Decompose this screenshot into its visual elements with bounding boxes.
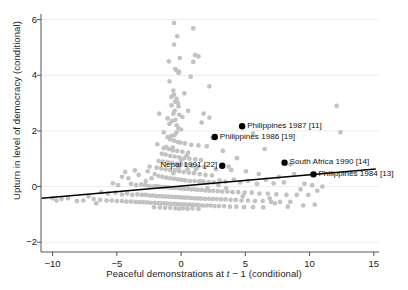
- scatter-point: [320, 184, 325, 189]
- scatter-point: [271, 181, 276, 186]
- y-axis-label: Upturn in level of democracy (conditiona…: [11, 21, 22, 200]
- scatter-point: [256, 172, 261, 177]
- scatter-point: [145, 169, 150, 174]
- scatter-point: [163, 205, 168, 210]
- scatter-point: [172, 21, 177, 26]
- point-annotation: Philippines 1984 [13]: [318, 169, 393, 178]
- scatter-point: [181, 206, 186, 211]
- scatter-point: [207, 84, 212, 89]
- scatter-point: [116, 183, 121, 188]
- scatter-point: [294, 193, 299, 198]
- scatter-point: [224, 186, 229, 191]
- scatter-point: [125, 191, 130, 196]
- point-annotation: South Africa 1990 [14]: [290, 157, 370, 166]
- scatter-point: [338, 130, 343, 135]
- scatter-point: [171, 171, 176, 176]
- scatter-point: [249, 190, 254, 195]
- scatter-point: [223, 197, 228, 202]
- scatter-point: [155, 142, 160, 147]
- scatter-point: [239, 198, 244, 203]
- scatter-point: [234, 204, 239, 209]
- scatter-point: [109, 198, 114, 203]
- scatter-point: [183, 178, 188, 183]
- scatter-point: [181, 170, 186, 175]
- scatter-point: [298, 187, 303, 192]
- scatter-point: [196, 54, 201, 59]
- highlighted-point[interactable]: [219, 163, 225, 169]
- scatter-point: [207, 115, 212, 120]
- scatter-point: [175, 34, 180, 39]
- plot-canvas: [0, 0, 408, 290]
- scatter-point: [123, 170, 128, 175]
- scatter-point: [185, 207, 190, 212]
- scatter-point: [230, 190, 235, 195]
- y-tick-label: −2: [20, 236, 37, 247]
- scatter-point: [192, 179, 197, 184]
- scatter-point: [260, 199, 265, 204]
- scatter-point: [178, 140, 183, 145]
- scatter-point: [158, 205, 163, 210]
- scatter-point: [132, 168, 137, 173]
- scatter-point: [201, 111, 206, 116]
- scatter-point: [211, 188, 216, 193]
- scatter-point: [169, 103, 174, 108]
- scatter-point: [172, 154, 177, 159]
- scatter-point: [196, 207, 201, 212]
- scatter-point: [165, 116, 170, 121]
- x-tick-label: −10: [33, 258, 73, 269]
- scatter-point: [310, 183, 315, 188]
- scatter-point: [196, 143, 201, 148]
- scatter-point: [215, 189, 220, 194]
- scatter-point: [168, 205, 173, 210]
- highlighted-point[interactable]: [239, 123, 245, 129]
- scatter-point: [167, 79, 172, 84]
- scatter-point: [203, 173, 208, 178]
- scatter-point: [301, 203, 306, 208]
- scatter-point: [221, 149, 226, 154]
- scatter-point: [111, 181, 116, 186]
- scatter-point: [176, 104, 181, 109]
- scatter-point: [278, 200, 283, 205]
- scatter-point: [205, 186, 210, 191]
- y-tick-label: 4: [20, 69, 37, 80]
- scatter-point: [302, 181, 307, 186]
- scatter-point: [147, 164, 152, 169]
- scatter-point: [129, 181, 134, 186]
- scatter-point: [168, 154, 173, 159]
- scatter-point: [163, 152, 168, 157]
- scatter-point: [267, 196, 272, 201]
- highlighted-point[interactable]: [310, 171, 316, 177]
- scatter-point: [198, 179, 203, 184]
- scatter-point: [244, 169, 249, 174]
- scatter-point: [261, 205, 266, 210]
- scatter-point: [220, 189, 225, 194]
- scatter-point: [214, 197, 219, 202]
- scatter-point: [240, 194, 245, 199]
- scatter-point: [120, 192, 125, 197]
- scatter-point: [188, 74, 193, 79]
- scatter-point: [242, 205, 247, 210]
- scatter-point: [75, 199, 80, 204]
- scatter-point: [174, 130, 179, 135]
- x-tick-label: −5: [97, 258, 137, 269]
- highlighted-point[interactable]: [212, 134, 218, 140]
- scatter-point: [169, 95, 174, 100]
- scatter-point: [167, 122, 172, 127]
- scatter-point: [235, 156, 240, 161]
- scatter-point: [157, 111, 162, 116]
- scatter-point: [161, 130, 166, 135]
- scatter-points-group: [50, 21, 343, 212]
- scatter-point: [273, 201, 278, 206]
- scatter-point: [124, 199, 129, 204]
- highlighted-point[interactable]: [281, 159, 287, 165]
- scatter-point: [186, 109, 191, 114]
- scatter-point: [188, 179, 193, 184]
- scatter-point: [177, 70, 182, 75]
- scatter-point: [81, 198, 86, 203]
- scatter-point: [253, 199, 258, 204]
- scatter-point: [334, 104, 339, 109]
- scatter-point: [143, 179, 148, 184]
- scatter-point: [171, 88, 176, 93]
- scatter-point: [179, 127, 184, 132]
- scatter-point: [180, 149, 185, 154]
